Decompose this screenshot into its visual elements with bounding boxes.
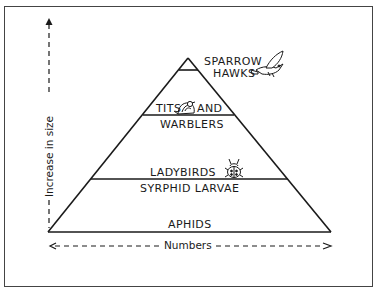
ladybird-icon — [225, 159, 243, 178]
label-aphids: APHIDS — [168, 219, 212, 231]
label-warblers: WARBLERS — [160, 119, 224, 131]
label-ladybirds: LADYBIRDS — [150, 167, 216, 179]
pyramid-outline — [48, 58, 331, 232]
x-axis-label: Numbers — [163, 239, 213, 251]
label-and: AND — [197, 103, 222, 115]
arrow-right-icon — [323, 243, 331, 249]
label-tits: TITS — [156, 103, 181, 115]
label-hawks: HAWKS — [213, 68, 255, 80]
arrow-up-icon — [46, 18, 53, 25]
label-syrphid-larvae: SYRPHID LARVAE — [140, 183, 239, 195]
y-axis-label: Increase in size — [43, 116, 55, 197]
